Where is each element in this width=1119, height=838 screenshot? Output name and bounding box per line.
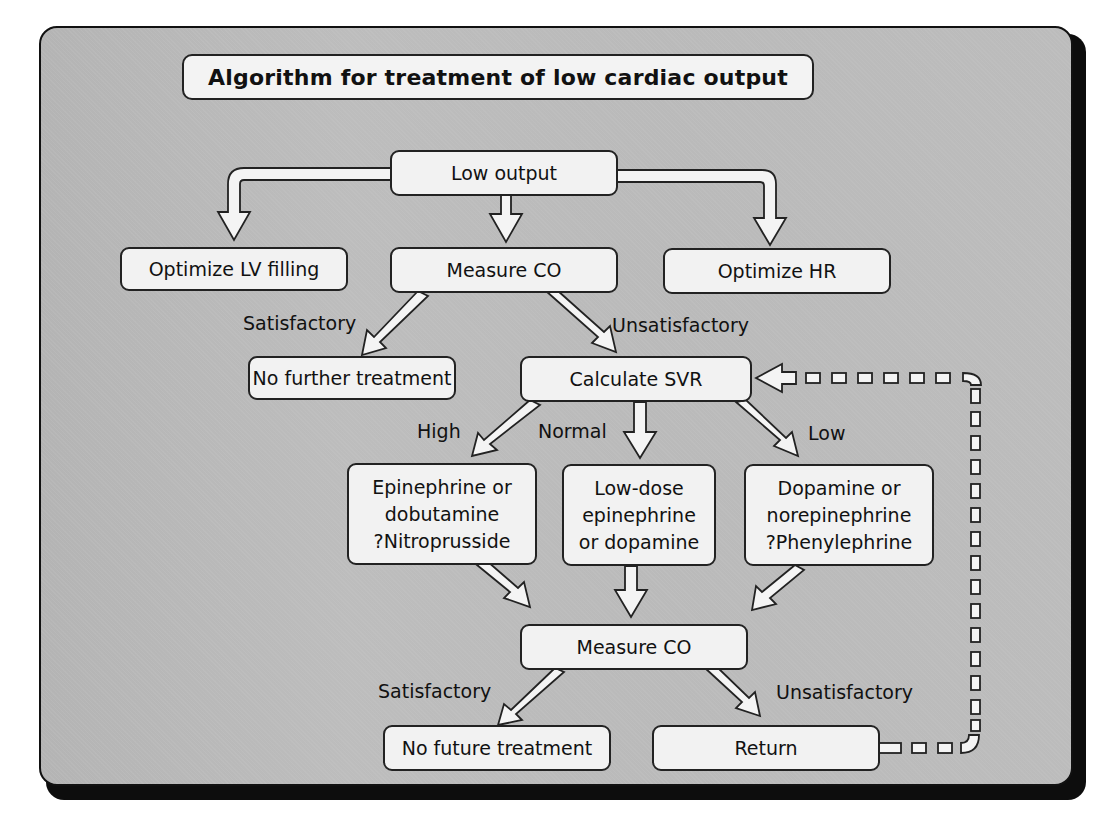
node-low-svr-treatment: Dopamine or norepinephrine ?Phenylephrin… xyxy=(744,464,934,566)
node-measure-co-2: Measure CO xyxy=(520,624,748,670)
arrow-low-to-measure-co-2 xyxy=(752,565,804,610)
node-no-future-treatment-text: No future treatment xyxy=(402,735,593,762)
node-low-output: Low output xyxy=(390,150,618,196)
node-measure-co-1: Measure CO xyxy=(390,247,618,293)
arrow-satisfactory-2 xyxy=(498,668,564,725)
normal-svr-line-3: or dopamine xyxy=(579,529,699,556)
high-svr-line-2: dobutamine xyxy=(372,501,511,528)
node-return-text: Return xyxy=(734,735,797,762)
node-no-further-treatment: No further treatment xyxy=(248,356,456,400)
node-high-svr-treatment: Epinephrine or dobutamine ?Nitroprusside xyxy=(347,463,537,565)
label-unsatisfactory-1: Unsatisfactory xyxy=(612,314,749,336)
arrow-normal-to-measure-co-2 xyxy=(615,566,647,617)
arrow-layer: .a { fill: #f4f4f4; stroke: #222; stroke… xyxy=(0,0,1119,838)
node-calculate-svr-text: Calculate SVR xyxy=(569,366,702,393)
arrow-to-measure-co-1 xyxy=(490,194,522,242)
high-svr-line-1: Epinephrine or xyxy=(372,474,511,501)
label-normal: Normal xyxy=(538,420,607,442)
label-high: High xyxy=(417,420,461,442)
node-measure-co-2-text: Measure CO xyxy=(576,634,691,661)
node-measure-co-1-text: Measure CO xyxy=(446,257,561,284)
low-svr-line-1: Dopamine or xyxy=(766,475,912,502)
label-satisfactory-1: Satisfactory xyxy=(243,312,356,334)
node-return: Return xyxy=(652,725,880,771)
node-low-output-text: Low output xyxy=(451,160,557,187)
arrow-unsatisfactory-2 xyxy=(705,666,760,716)
label-unsatisfactory-2: Unsatisfactory xyxy=(776,681,913,703)
node-calculate-svr: Calculate SVR xyxy=(520,356,752,402)
node-no-further-treatment-text: No further treatment xyxy=(253,365,452,392)
node-optimize-lv-filling-text: Optimize LV filling xyxy=(149,256,320,283)
node-optimize-lv-filling: Optimize LV filling xyxy=(120,247,348,291)
normal-svr-line-2: epinephrine xyxy=(579,502,699,529)
low-svr-line-2: norepinephrine xyxy=(766,502,912,529)
arrow-satisfactory-1 xyxy=(362,291,428,355)
high-svr-line-3: ?Nitroprusside xyxy=(372,528,511,555)
node-optimize-hr-text: Optimize HR xyxy=(718,258,837,285)
node-no-future-treatment: No future treatment xyxy=(383,725,611,771)
arrow-to-optimize-lv xyxy=(218,168,392,240)
arrow-unsatisfactory-1 xyxy=(546,291,616,352)
low-svr-line-3: ?Phenylephrine xyxy=(766,529,912,556)
arrow-normal xyxy=(624,402,656,458)
arrow-to-optimize-hr xyxy=(616,170,786,245)
label-low: Low xyxy=(808,422,845,444)
node-normal-svr-treatment: Low-dose epinephrine or dopamine xyxy=(562,464,716,566)
node-optimize-hr: Optimize HR xyxy=(663,248,891,294)
label-satisfactory-2: Satisfactory xyxy=(378,680,491,702)
arrow-low xyxy=(736,400,798,456)
arrow-high-to-measure-co-2 xyxy=(477,561,530,607)
normal-svr-line-1: Low-dose xyxy=(579,475,699,502)
arrow-high xyxy=(472,400,540,456)
